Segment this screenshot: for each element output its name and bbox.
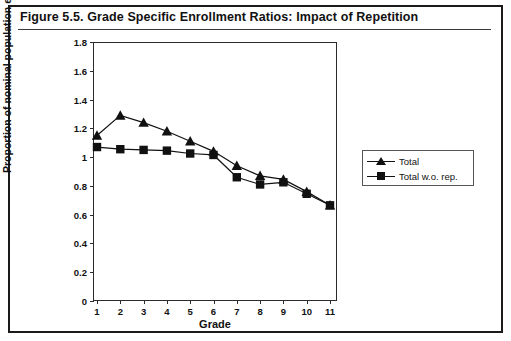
x-tick-label: 3 [134,306,154,317]
x-tick-label: 7 [227,306,247,317]
x-tick-mark [283,300,284,304]
y-tick-mark [90,42,94,43]
square-marker-icon [377,172,385,180]
chart-legend: Total Total w.o. rep. [362,150,474,186]
y-tick-label: 1.6 [59,65,87,76]
y-tick-label: 0 [59,296,87,307]
x-tick-mark [144,300,145,304]
y-tick-mark [90,128,94,129]
x-tick-label: 11 [320,306,340,317]
x-tick-mark [97,300,98,304]
x-tick-mark [120,300,121,304]
x-tick-label: 4 [157,306,177,317]
y-axis-title: Proportion of nominal population enrolle… [1,0,13,191]
legend-item-total-wo-rep: Total w.o. rep. [367,169,458,183]
figure-title: Figure 5.5. Grade Specific Enrollment Ra… [20,10,418,24]
x-tick-label: 6 [204,306,224,317]
plot-area [93,42,337,301]
x-tick-mark [167,300,168,304]
y-tick-mark [90,301,94,302]
y-tick-label: 0.6 [59,209,87,220]
title-divider [18,29,491,30]
y-tick-mark [90,215,94,216]
legend-label-total: Total [399,156,419,167]
y-tick-label: 0.8 [59,180,87,191]
legend-swatch-triangle [367,156,395,166]
legend-item-total: Total [367,154,419,168]
x-tick-mark [237,300,238,304]
y-tick-mark [90,272,94,273]
y-tick-mark [90,157,94,158]
x-tick-label: 10 [297,306,317,317]
legend-label-total-wo-rep: Total w.o. rep. [399,171,458,182]
y-tick-label: 0.2 [59,267,87,278]
x-tick-mark [330,300,331,304]
x-tick-label: 2 [110,306,130,317]
y-tick-mark [90,71,94,72]
x-tick-label: 1 [87,306,107,317]
x-tick-mark [214,300,215,304]
y-tick-label: 1.2 [59,123,87,134]
y-tick-label: 1 [59,152,87,163]
x-tick-label: 5 [180,306,200,317]
legend-swatch-square [367,171,395,181]
x-tick-label: 8 [250,306,270,317]
y-tick-mark [90,186,94,187]
figure-container: Figure 5.5. Grade Specific Enrollment Ra… [0,0,511,341]
y-tick-label: 0.4 [59,238,87,249]
y-tick-mark [90,243,94,244]
x-tick-mark [260,300,261,304]
y-tick-label: 1.8 [59,37,87,48]
y-tick-label: 1.4 [59,94,87,105]
triangle-marker-icon [376,157,386,165]
x-tick-mark [190,300,191,304]
x-tick-mark [307,300,308,304]
x-tick-label: 9 [273,306,293,317]
y-tick-mark [90,100,94,101]
x-axis-title: Grade [93,318,337,330]
